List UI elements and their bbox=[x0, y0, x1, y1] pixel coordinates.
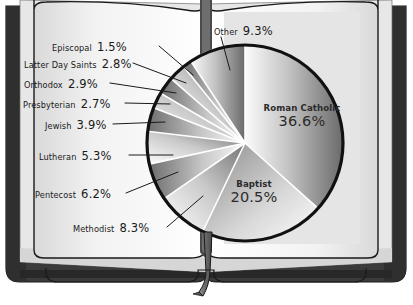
pie-label-orthodox: Orthodox 2.9% bbox=[24, 75, 98, 92]
pie-label-jewish: Jewish 3.9% bbox=[45, 116, 107, 133]
pie-label-lutheran-percent: 5.3% bbox=[82, 149, 112, 163]
pie-label-baptist-percent: 20.5% bbox=[216, 190, 292, 205]
pie-label-baptist: Baptist 20.5% bbox=[216, 180, 292, 205]
pie-label-latter-day-saints: Latter Day Saints 2.8% bbox=[24, 55, 132, 72]
pie-label-methodist: Methodist 8.3% bbox=[73, 219, 149, 236]
pie-label-methodist-percent: 8.3% bbox=[119, 221, 149, 235]
pie-label-roman-catholic: Roman Catholic 36.6% bbox=[252, 104, 352, 129]
pie-label-roman-catholic-percent: 36.6% bbox=[252, 114, 352, 129]
pie-label-other: Other 9.3% bbox=[214, 22, 273, 39]
pie-label-jewish-name: Jewish bbox=[45, 121, 71, 131]
pie-label-lutheran-name: Lutheran bbox=[39, 152, 76, 162]
pie-label-other-percent: 9.3% bbox=[243, 24, 273, 38]
pie-label-methodist-name: Methodist bbox=[73, 224, 114, 234]
pie-label-roman-catholic-name: Roman Catholic bbox=[252, 104, 352, 113]
pie-label-episcopal: Episcopal 1.5% bbox=[52, 38, 127, 55]
pie-label-pentecost-percent: 6.2% bbox=[81, 187, 111, 201]
pie-label-episcopal-percent: 1.5% bbox=[97, 40, 127, 54]
pie-label-other-name: Other bbox=[214, 27, 238, 37]
pie-label-baptist-name: Baptist bbox=[216, 180, 292, 189]
pie-label-jewish-percent: 3.9% bbox=[77, 118, 107, 132]
pie-label-lutheran: Lutheran 5.3% bbox=[39, 147, 112, 164]
pie-label-presbyterian-name: Presbyterian bbox=[23, 100, 76, 110]
pie-label-latter-day-saints-percent: 2.8% bbox=[102, 57, 132, 71]
pie-label-pentecost-name: Pentecost bbox=[35, 190, 76, 200]
pie-label-orthodox-percent: 2.9% bbox=[68, 77, 98, 91]
pie-chart bbox=[146, 44, 345, 243]
pie-label-presbyterian: Presbyterian 2.7% bbox=[23, 95, 111, 112]
pie-label-latter-day-saints-name: Latter Day Saints bbox=[24, 60, 97, 70]
pie-label-pentecost: Pentecost 6.2% bbox=[35, 185, 111, 202]
pie-label-orthodox-name: Orthodox bbox=[24, 80, 63, 90]
pie-label-presbyterian-percent: 2.7% bbox=[81, 97, 111, 111]
pie-label-episcopal-name: Episcopal bbox=[52, 43, 92, 53]
